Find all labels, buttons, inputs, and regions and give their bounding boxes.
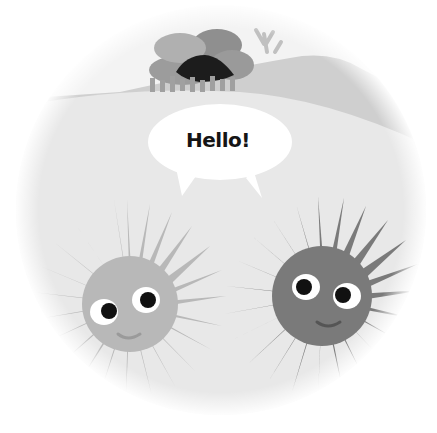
- illustration-scene: [0, 0, 437, 433]
- speech-bubble-text: Hello!: [168, 128, 268, 152]
- vignette: [14, 3, 428, 417]
